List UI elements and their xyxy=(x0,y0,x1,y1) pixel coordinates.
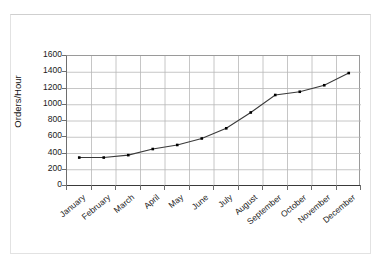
x-axis-tick-mark xyxy=(262,185,263,190)
chart-page: Orders/Hour 0200400600800100012001400160… xyxy=(0,0,384,276)
x-axis-tick-mark xyxy=(311,185,312,190)
x-axis-tick-mark xyxy=(115,185,116,190)
x-axis-labels: JanuaryFebruaryMarchAprilMayJuneJulyAugu… xyxy=(0,0,384,276)
x-axis-tick-mark xyxy=(287,185,288,190)
x-axis-tick-mark xyxy=(336,185,337,190)
x-axis-tick-mark xyxy=(91,185,92,190)
x-axis-tick-mark xyxy=(140,185,141,190)
x-axis-tick-mark xyxy=(164,185,165,190)
x-axis-tick-mark xyxy=(66,185,67,190)
x-axis-tick-mark xyxy=(189,185,190,190)
x-axis-tick-mark xyxy=(360,185,361,190)
line-chart: Orders/Hour 0200400600800100012001400160… xyxy=(0,0,384,276)
x-axis-tick-mark xyxy=(213,185,214,190)
x-axis-tick-mark xyxy=(238,185,239,190)
